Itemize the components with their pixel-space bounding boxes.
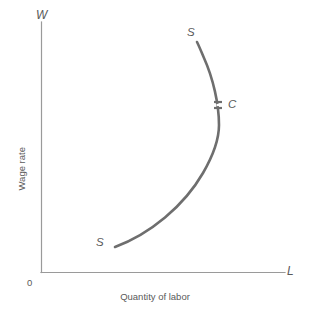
supply-curve <box>115 42 219 247</box>
plot-area <box>0 0 310 317</box>
supply-curve-bottom-label: S <box>96 237 104 249</box>
origin-label: 0 <box>27 278 32 288</box>
critical-point-label: C <box>228 99 236 111</box>
y-axis-variable-label: W <box>36 9 47 21</box>
labor-supply-diagram: W L 0 S S C Quantity of labor Wage rate <box>0 0 310 317</box>
y-axis-title: Wage rate <box>17 139 27 199</box>
supply-curve-top-label: S <box>187 27 195 39</box>
x-axis-title: Quantity of labor <box>0 292 310 302</box>
x-axis-variable-label: L <box>287 265 294 277</box>
